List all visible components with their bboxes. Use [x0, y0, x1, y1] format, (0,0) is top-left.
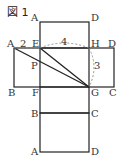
label-HG-length: 3 [94, 60, 100, 71]
label-mid-B: B [8, 87, 15, 98]
label-low-B: B [31, 108, 38, 119]
label-mid-D: D [108, 38, 116, 49]
segment-AG [14, 48, 89, 87]
label-top-A: A [30, 12, 39, 23]
label-mid-A: A [6, 38, 15, 49]
label-H: H [91, 38, 100, 49]
lower-face-2 [40, 113, 89, 152]
label-E: E [32, 38, 39, 49]
label-low-C: C [91, 108, 99, 119]
label-mid-C: C [109, 87, 117, 98]
net-diagram: A D A 2 E 4 H D P 3 B F G C B C A D [0, 0, 126, 167]
label-bot-D: D [91, 146, 99, 157]
label-AE-length: 2 [20, 38, 26, 49]
label-EH-length: 4 [61, 36, 67, 47]
label-G: G [91, 87, 99, 98]
label-top-D: D [91, 12, 99, 23]
segment-EG [40, 48, 89, 87]
label-bot-A: A [30, 146, 39, 157]
lower-face-1 [40, 87, 89, 113]
label-P: P [31, 60, 38, 71]
label-F: F [32, 87, 39, 98]
